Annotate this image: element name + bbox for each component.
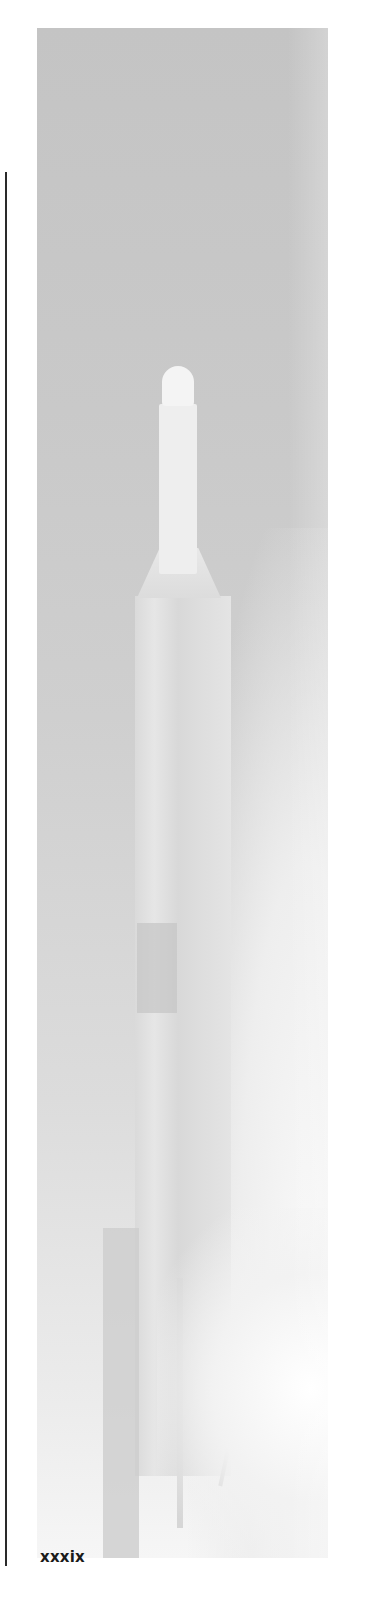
- rocket-upper-stage: [159, 404, 197, 574]
- photo-fade: [288, 28, 328, 1558]
- launch-tower: [103, 1228, 139, 1558]
- margin-rule: [5, 172, 7, 1566]
- page-number: xxxix: [40, 1548, 85, 1566]
- rocket-body-marking: [137, 923, 177, 1013]
- rocket-launch-photo: [37, 28, 328, 1558]
- rocket-nose-cone: [162, 366, 194, 406]
